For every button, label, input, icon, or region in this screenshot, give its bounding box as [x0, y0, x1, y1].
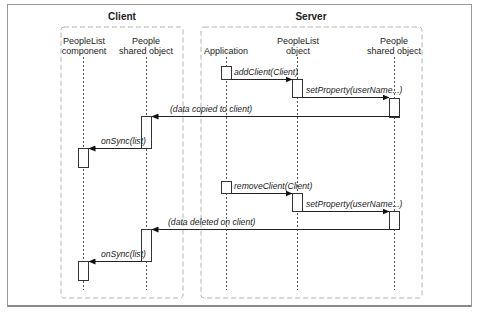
- message-label-onsync-2: onSync(list): [101, 249, 146, 259]
- activation-application-1: [222, 67, 232, 80]
- activation-peoplelist-component-2: [79, 262, 89, 281]
- actor-peoplelist-object: PeopleList object: [277, 36, 320, 56]
- actor-label-line1: People: [132, 36, 160, 46]
- activation-application-2: [222, 182, 232, 194]
- message-label-setproperty-1: setProperty(userName...): [306, 85, 403, 95]
- message-label-addclient: addClient(Client): [234, 67, 298, 77]
- message-label-data-copied: (data copied to client): [170, 104, 252, 114]
- message-label-setproperty-2: setProperty(userName...): [306, 199, 403, 209]
- activation-peoplelist-object-2: [293, 194, 303, 212]
- group-title-server: Server: [295, 11, 326, 22]
- actor-label-line2: shared object: [367, 46, 422, 56]
- group-title-client: Client: [108, 11, 136, 22]
- activation-peoplelist-component-1: [79, 149, 89, 168]
- activation-server-people-1: [390, 99, 400, 118]
- message-label-removeclient: removeClient(Client): [234, 181, 312, 191]
- actor-label-line1: Application: [204, 46, 248, 56]
- actor-label-line1: PeopleList: [63, 36, 106, 46]
- message-label-data-deleted: (data deleted on client): [168, 217, 256, 227]
- activation-server-people-2: [390, 212, 400, 230]
- actor-client-people: People shared object: [119, 36, 174, 56]
- actor-label-line2: object: [286, 46, 311, 56]
- actor-label-line2: shared object: [119, 46, 174, 56]
- actor-peoplelist-component: PeopleList component: [62, 36, 107, 56]
- actor-application: Application: [204, 46, 248, 56]
- actor-label-line1: PeopleList: [277, 36, 320, 46]
- message-label-onsync-1: onSync(list): [101, 136, 146, 146]
- actor-server-people: People shared object: [367, 36, 422, 56]
- activation-peoplelist-object-1: [293, 80, 303, 98]
- sequence-diagram: Client Server PeopleList component Peopl…: [0, 0, 479, 315]
- actor-label-line2: component: [62, 46, 107, 56]
- actor-label-line1: People: [380, 36, 408, 46]
